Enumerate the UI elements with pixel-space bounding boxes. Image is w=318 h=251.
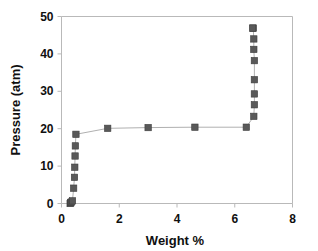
data-point-marker [251,77,257,83]
data-point-marker [251,91,257,97]
y-tick-label: 30 [40,84,54,98]
chart-figure: 02468 01020304050 Weight % Pressure (atm… [0,0,318,251]
data-point-marker [251,57,257,63]
data-point-marker [251,36,257,42]
data-point-marker [192,124,198,130]
data-point-marker [251,46,257,52]
y-tick-label: 0 [47,197,54,211]
data-series [67,25,258,207]
data-point-marker [72,164,78,170]
data-point-marker [69,198,75,204]
plot-frame [62,17,293,204]
x-axis-tick-labels: 02468 [58,212,296,226]
data-point-marker [73,131,79,137]
data-point-marker [249,25,255,31]
data-point-marker [145,124,151,130]
x-axis-title: Weight % [146,233,205,248]
data-point-marker [72,143,78,149]
x-tick-label: 8 [289,212,296,226]
data-point-marker [70,185,76,191]
y-tick-label: 10 [40,159,54,173]
data-point-marker [71,174,77,180]
y-tick-label: 20 [40,122,54,136]
x-tick-label: 0 [58,212,65,226]
x-tick-label: 2 [116,212,123,226]
data-point-marker [105,125,111,131]
y-axis-tick-labels: 01020304050 [40,10,54,211]
scatter-plot: 02468 01020304050 Weight % Pressure (atm… [0,0,318,251]
x-axis-ticks [62,204,293,208]
x-tick-label: 6 [231,212,238,226]
data-point-marker [243,124,249,130]
y-axis-title: Pressure (atm) [8,64,23,155]
y-tick-label: 50 [40,10,54,24]
data-point-marker [72,153,78,159]
x-tick-label: 4 [174,212,181,226]
data-point-marker [251,113,257,119]
y-axis-ticks [58,17,62,204]
series-line [70,28,254,203]
y-tick-label: 40 [40,47,54,61]
data-point-marker [251,102,257,108]
